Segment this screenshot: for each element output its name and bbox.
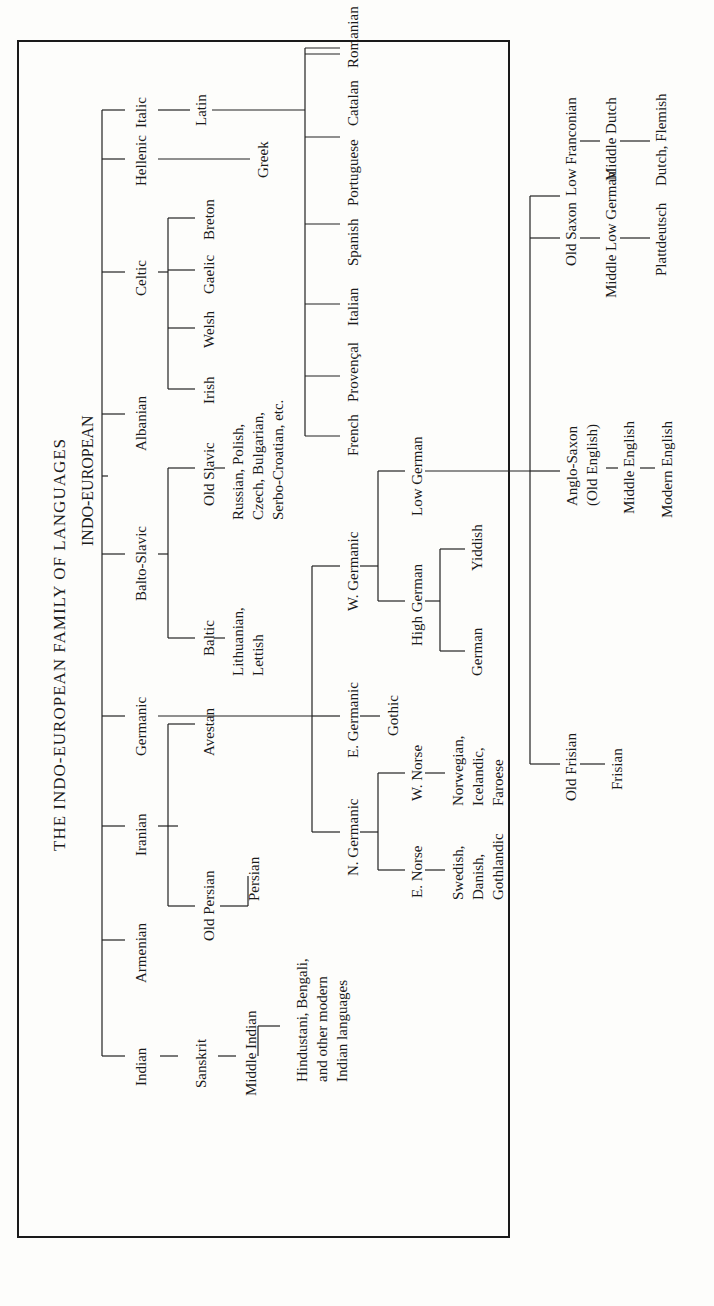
root-node: INDO-EUROPEAN: [78, 415, 97, 546]
node-persian: Persian: [245, 857, 264, 901]
node-baltic: Baltic: [200, 620, 219, 656]
node-french: French: [344, 414, 363, 456]
node-low-german: Low German: [408, 436, 427, 516]
node-slavic-modern: Russian, Polish, Czech, Bulgarian, Serbo…: [228, 400, 288, 520]
node-armenian: Armenian: [132, 923, 151, 983]
node-iranian: Iranian: [132, 814, 151, 856]
node-italic: Italic: [132, 97, 151, 128]
diagram-title: THE INDO-EUROPEAN FAMILY OF LANGUAGES: [50, 438, 69, 851]
node-middle-indian: Middle Indian: [242, 1011, 261, 1096]
node-old-frisian: Old Frisian: [562, 733, 581, 801]
node-sanskrit: Sanskrit: [192, 1039, 211, 1088]
node-plattdeutsch: Plattdeutsch: [652, 203, 671, 276]
node-middle-low-german: Middle Low German: [602, 171, 621, 298]
node-romanian: Romanian: [344, 6, 363, 68]
node-east-germanic: E. Germanic: [344, 682, 363, 758]
node-irish: Irish: [200, 377, 219, 405]
node-baltic-modern: Lithuanian, Lettish: [228, 607, 268, 676]
node-frisian: Frisian: [608, 748, 627, 790]
node-west-norse: W. Norse: [408, 745, 427, 801]
node-high-german: High German: [408, 564, 427, 646]
node-portuguese: Portuguese: [344, 139, 363, 206]
node-west-norse-modern: Norwegian, Icelandic, Faroese: [448, 736, 508, 806]
node-welsh: Welsh: [200, 311, 219, 348]
node-germanic: Germanic: [132, 697, 151, 756]
node-albanian: Albanian: [132, 396, 151, 451]
node-german: German: [468, 628, 487, 676]
node-indian: Indian: [132, 1048, 151, 1086]
node-low-franconian: Low Franconian: [562, 97, 581, 196]
node-east-norse-modern: Swedish, Danish, Gothlandic: [448, 833, 508, 900]
node-anglo-saxon: Anglo-Saxon (Old English): [562, 424, 602, 506]
node-yiddish: Yiddish: [468, 524, 487, 571]
node-modern-english: Modern English: [658, 421, 677, 518]
node-gothic: Gothic: [384, 695, 403, 736]
node-modern-indian-languages: Hindustani, Bengali, and other modern In…: [292, 958, 352, 1082]
language-tree-diagram: THE INDO-EUROPEAN FAMILY OF LANGUAGES IN…: [0, 0, 714, 1306]
node-latin: Latin: [192, 94, 211, 126]
node-greek: Greek: [254, 141, 273, 178]
node-old-saxon: Old Saxon: [562, 202, 581, 266]
node-east-norse: E. Norse: [408, 846, 427, 899]
node-spanish: Spanish: [344, 218, 363, 266]
node-west-germanic: W. Germanic: [344, 532, 363, 611]
node-old-slavic: Old Slavic: [200, 442, 219, 506]
node-old-persian: Old Persian: [200, 871, 219, 941]
node-dutch-flemish: Dutch, Flemish: [652, 94, 671, 187]
node-gaelic: Gaelic: [200, 255, 219, 294]
node-provencal: Provençal: [344, 342, 363, 402]
node-breton: Breton: [200, 199, 219, 240]
node-balto-slavic: Balto-Slavic: [132, 526, 151, 601]
node-middle-dutch: Middle Dutch: [602, 97, 621, 181]
node-hellenic: Hellenic: [132, 135, 151, 186]
node-middle-english: Middle English: [620, 421, 639, 514]
node-north-germanic: N. Germanic: [344, 799, 363, 876]
node-italian: Italian: [344, 288, 363, 326]
node-catalan: Catalan: [344, 80, 363, 126]
node-celtic: Celtic: [132, 260, 151, 296]
node-avestan: Avestan: [200, 708, 219, 756]
